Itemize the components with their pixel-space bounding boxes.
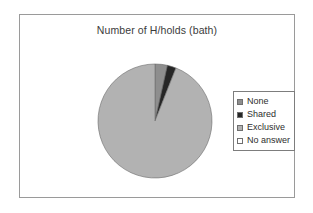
pie-svg [97,63,213,179]
chart-plot-frame: Number of H/holds (bath) None Shared Exc… [19,14,295,198]
legend-label-exclusive: Exclusive [247,121,285,134]
pie-chart [97,63,213,179]
legend-swatch-none [237,99,243,105]
legend-swatch-exclusive [237,125,243,131]
legend-item-exclusive[interactable]: Exclusive [237,121,290,134]
legend-swatch-no-answer [237,138,243,144]
legend-label-shared: Shared [247,108,276,121]
chart-legend: None Shared Exclusive No answer [233,91,295,151]
legend-item-no-answer[interactable]: No answer [237,134,290,147]
legend-label-no-answer: No answer [247,134,290,147]
pie-slice-group [98,64,212,178]
legend-label-none: None [247,95,269,108]
legend-swatch-shared [237,112,243,118]
chart-container: Number of H/holds (bath) None Shared Exc… [0,0,313,213]
pie-slice-exclusive[interactable] [98,64,212,178]
legend-item-shared[interactable]: Shared [237,108,290,121]
chart-title: Number of H/holds (bath) [20,24,294,36]
legend-item-none[interactable]: None [237,95,290,108]
